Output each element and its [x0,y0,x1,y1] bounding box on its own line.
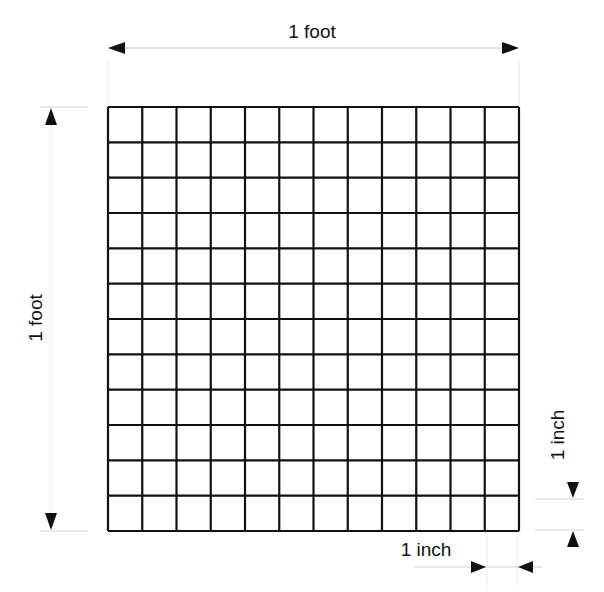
arrow-down-icon [45,513,57,530]
left-foot-dimension: 1 foot [25,107,88,531]
square-foot-diagram: 1 foot 1 foot 1 inch 1 inch [0,0,604,592]
arrow-left-icon [518,561,533,573]
bottom-inch-dimension: 1 inch [401,536,543,590]
arrow-left-icon [108,42,125,54]
top-foot-label: 1 foot [288,21,336,42]
arrow-up-icon [45,108,57,125]
arrow-right-icon [471,561,486,573]
left-foot-label: 1 foot [25,294,46,342]
top-foot-dimension: 1 foot [108,21,519,104]
arrow-down-icon [567,482,579,498]
arrow-right-icon [502,42,519,54]
arrow-up-icon [567,531,579,547]
inch-grid [108,107,519,531]
right-inch-label: 1 inch [547,410,568,461]
bottom-inch-label: 1 inch [401,539,452,560]
right-inch-dimension: 1 inch [535,410,584,547]
